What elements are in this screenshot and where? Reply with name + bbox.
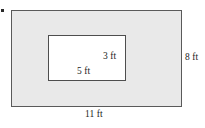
outer-rectangle-height-label: 8 ft xyxy=(185,52,198,63)
geometry-figure: 3 ft 5 ft 8 ft 11 ft xyxy=(0,0,205,128)
outer-rectangle-width-label: 11 ft xyxy=(85,109,103,120)
inner-rectangle-width-label: 5 ft xyxy=(77,66,90,77)
inner-rectangle-height-label: 3 ft xyxy=(103,51,116,62)
bullet-marker-icon xyxy=(1,9,4,12)
